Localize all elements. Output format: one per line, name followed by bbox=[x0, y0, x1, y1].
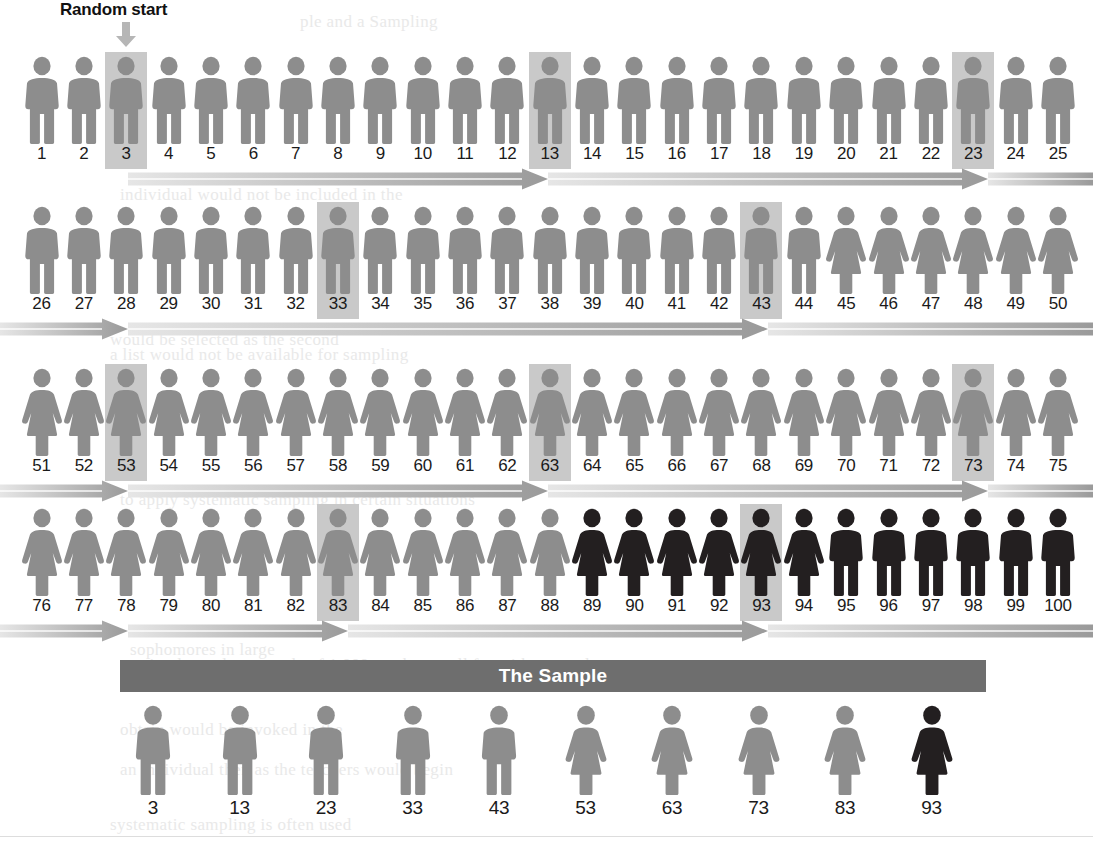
population-unit[interactable]: 94 bbox=[783, 498, 825, 628]
selected-unit[interactable]: 43 bbox=[740, 196, 782, 326]
population-unit[interactable]: 31 bbox=[232, 196, 274, 326]
population-unit[interactable]: 26 bbox=[21, 196, 63, 326]
population-unit[interactable]: 46 bbox=[868, 196, 910, 326]
population-unit[interactable]: 38 bbox=[529, 196, 571, 326]
population-unit[interactable]: 90 bbox=[613, 498, 655, 628]
population-unit[interactable]: 48 bbox=[952, 196, 994, 326]
sample-unit[interactable]: 83 bbox=[815, 705, 875, 825]
selected-unit[interactable]: 83 bbox=[317, 498, 359, 628]
population-unit[interactable]: 87 bbox=[486, 498, 528, 628]
population-unit[interactable]: 68 bbox=[740, 358, 782, 488]
population-unit[interactable]: 84 bbox=[359, 498, 401, 628]
population-unit[interactable]: 40 bbox=[613, 196, 655, 326]
population-unit[interactable]: 24 bbox=[995, 46, 1037, 176]
population-unit[interactable]: 2 bbox=[63, 46, 105, 176]
selected-unit[interactable]: 73 bbox=[952, 358, 994, 488]
sample-unit[interactable]: 93 bbox=[902, 705, 962, 825]
population-unit[interactable]: 60 bbox=[402, 358, 444, 488]
selected-unit[interactable]: 3 bbox=[105, 46, 147, 176]
sample-unit[interactable]: 13 bbox=[210, 705, 270, 825]
population-unit[interactable]: 70 bbox=[825, 358, 867, 488]
population-unit[interactable]: 17 bbox=[698, 46, 740, 176]
population-unit[interactable]: 42 bbox=[698, 196, 740, 326]
selected-unit[interactable]: 63 bbox=[529, 358, 571, 488]
population-unit[interactable]: 56 bbox=[232, 358, 274, 488]
population-unit[interactable]: 6 bbox=[232, 46, 274, 176]
sample-unit[interactable]: 43 bbox=[469, 705, 529, 825]
selected-unit[interactable]: 13 bbox=[529, 46, 571, 176]
population-unit[interactable]: 19 bbox=[783, 46, 825, 176]
population-unit[interactable]: 49 bbox=[995, 196, 1037, 326]
population-unit[interactable]: 58 bbox=[317, 358, 359, 488]
population-unit[interactable]: 77 bbox=[63, 498, 105, 628]
population-unit[interactable]: 37 bbox=[486, 196, 528, 326]
population-unit[interactable]: 100 bbox=[1037, 498, 1079, 628]
population-unit[interactable]: 28 bbox=[105, 196, 147, 326]
population-unit[interactable]: 82 bbox=[275, 498, 317, 628]
population-unit[interactable]: 74 bbox=[995, 358, 1037, 488]
population-unit[interactable]: 50 bbox=[1037, 196, 1079, 326]
population-unit[interactable]: 89 bbox=[571, 498, 613, 628]
population-unit[interactable]: 64 bbox=[571, 358, 613, 488]
sample-unit[interactable]: 73 bbox=[729, 705, 789, 825]
population-unit[interactable]: 78 bbox=[105, 498, 147, 628]
population-unit[interactable]: 1 bbox=[21, 46, 63, 176]
population-unit[interactable]: 86 bbox=[444, 498, 486, 628]
population-unit[interactable]: 7 bbox=[275, 46, 317, 176]
population-unit[interactable]: 20 bbox=[825, 46, 867, 176]
population-unit[interactable]: 4 bbox=[148, 46, 190, 176]
population-unit[interactable]: 54 bbox=[148, 358, 190, 488]
population-unit[interactable]: 30 bbox=[190, 196, 232, 326]
population-unit[interactable]: 34 bbox=[359, 196, 401, 326]
population-unit[interactable]: 22 bbox=[910, 46, 952, 176]
population-unit[interactable]: 81 bbox=[232, 498, 274, 628]
population-unit[interactable]: 16 bbox=[656, 46, 698, 176]
sample-unit[interactable]: 53 bbox=[556, 705, 616, 825]
population-unit[interactable]: 11 bbox=[444, 46, 486, 176]
population-unit[interactable]: 67 bbox=[698, 358, 740, 488]
population-unit[interactable]: 9 bbox=[359, 46, 401, 176]
population-unit[interactable]: 29 bbox=[148, 196, 190, 326]
population-unit[interactable]: 96 bbox=[868, 498, 910, 628]
population-unit[interactable]: 79 bbox=[148, 498, 190, 628]
population-unit[interactable]: 18 bbox=[740, 46, 782, 176]
population-unit[interactable]: 80 bbox=[190, 498, 232, 628]
population-unit[interactable]: 14 bbox=[571, 46, 613, 176]
population-unit[interactable]: 51 bbox=[21, 358, 63, 488]
population-unit[interactable]: 5 bbox=[190, 46, 232, 176]
population-unit[interactable]: 45 bbox=[825, 196, 867, 326]
population-unit[interactable]: 75 bbox=[1037, 358, 1079, 488]
sample-unit[interactable]: 33 bbox=[383, 705, 443, 825]
population-unit[interactable]: 69 bbox=[783, 358, 825, 488]
population-unit[interactable]: 97 bbox=[910, 498, 952, 628]
population-unit[interactable]: 8 bbox=[317, 46, 359, 176]
population-unit[interactable]: 99 bbox=[995, 498, 1037, 628]
population-unit[interactable]: 76 bbox=[21, 498, 63, 628]
population-unit[interactable]: 59 bbox=[359, 358, 401, 488]
population-unit[interactable]: 88 bbox=[529, 498, 571, 628]
population-unit[interactable]: 98 bbox=[952, 498, 994, 628]
population-unit[interactable]: 25 bbox=[1037, 46, 1079, 176]
population-unit[interactable]: 55 bbox=[190, 358, 232, 488]
selected-unit[interactable]: 93 bbox=[740, 498, 782, 628]
population-unit[interactable]: 39 bbox=[571, 196, 613, 326]
selected-unit[interactable]: 53 bbox=[105, 358, 147, 488]
population-unit[interactable]: 47 bbox=[910, 196, 952, 326]
population-unit[interactable]: 85 bbox=[402, 498, 444, 628]
population-unit[interactable]: 44 bbox=[783, 196, 825, 326]
population-unit[interactable]: 66 bbox=[656, 358, 698, 488]
population-unit[interactable]: 12 bbox=[486, 46, 528, 176]
population-unit[interactable]: 91 bbox=[656, 498, 698, 628]
population-unit[interactable]: 65 bbox=[613, 358, 655, 488]
population-unit[interactable]: 92 bbox=[698, 498, 740, 628]
population-unit[interactable]: 57 bbox=[275, 358, 317, 488]
population-unit[interactable]: 21 bbox=[868, 46, 910, 176]
sample-unit[interactable]: 23 bbox=[296, 705, 356, 825]
selected-unit[interactable]: 23 bbox=[952, 46, 994, 176]
population-unit[interactable]: 10 bbox=[402, 46, 444, 176]
population-unit[interactable]: 15 bbox=[613, 46, 655, 176]
population-unit[interactable]: 71 bbox=[868, 358, 910, 488]
population-unit[interactable]: 72 bbox=[910, 358, 952, 488]
population-unit[interactable]: 32 bbox=[275, 196, 317, 326]
population-unit[interactable]: 62 bbox=[486, 358, 528, 488]
